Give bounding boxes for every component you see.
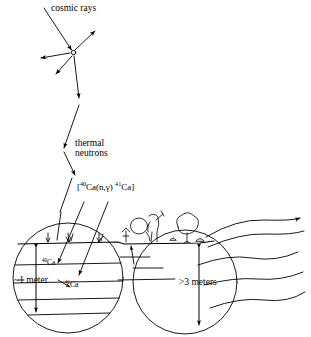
magnifier-loop-glyph — [131, 218, 151, 241]
secondary-ray-left — [41, 53, 70, 58]
ca41-symbol: Ca — [70, 280, 78, 289]
diagram-artwork — [0, 0, 311, 337]
thermal-neutrons-label: thermal neutrons — [75, 138, 108, 159]
secondary-ray-up-right — [75, 31, 95, 50]
incoming-cosmic-ray — [44, 8, 72, 50]
soil-stratum-1 — [15, 263, 121, 265]
soil-stratum-3 — [18, 298, 119, 300]
diagram-canvas: cosmic rays thermal neutrons [40Ca(n,γ) … — [0, 0, 311, 337]
secondary-ray-down-left — [56, 56, 72, 74]
thermal-neutrons-line1: thermal — [75, 138, 108, 148]
surface-scene — [122, 211, 204, 243]
cosmic-ray-cascade — [41, 8, 95, 74]
surface-flux-marks — [46, 233, 103, 242]
flow-line-5 — [210, 292, 305, 308]
tree-figure — [177, 213, 199, 243]
thermal-neutrons-line2: neutrons — [75, 148, 108, 158]
reaction-channel: (n,γ) — [96, 182, 113, 192]
isotope-ca40-label: 40Ca — [42, 259, 55, 267]
neutron-segment-1 — [74, 56, 79, 98]
deep-stratum-1 — [118, 279, 175, 280]
groundwater-flow-lines — [198, 218, 305, 308]
neutron-segment-4 — [60, 178, 72, 212]
nuclear-reaction-label: [40Ca(n,γ) 41Ca] — [77, 183, 134, 193]
cosmic-rays-label: cosmic rays — [51, 3, 96, 13]
flow-line-4 — [204, 272, 303, 285]
flux-mark-1 — [46, 233, 50, 242]
reaction-product-symbol: Ca — [121, 182, 131, 192]
interaction-vertex — [71, 50, 75, 54]
pointer-to-ca40 — [58, 202, 84, 263]
surface-pointer-arrow — [131, 246, 134, 264]
isotope-ca41-label: 41Ca — [65, 281, 78, 289]
person-figure — [148, 211, 164, 242]
deep-depth-label: >3 meters — [179, 277, 217, 287]
deep-zone-magnifier — [118, 230, 237, 334]
signpost-figure — [122, 228, 130, 242]
soil-stratum-4 — [28, 313, 110, 315]
flow-line-3 — [198, 252, 298, 265]
ca40-symbol: Ca — [47, 258, 55, 267]
neutron-segment-5 — [57, 212, 61, 240]
reaction-bracket-close: ] — [131, 182, 134, 192]
neutron-segment-3 — [64, 152, 75, 175]
shallow-depth-label: ~1 meter — [14, 275, 48, 285]
flow-line-2 — [208, 231, 304, 247]
reaction-target-symbol: Ca — [86, 182, 96, 192]
